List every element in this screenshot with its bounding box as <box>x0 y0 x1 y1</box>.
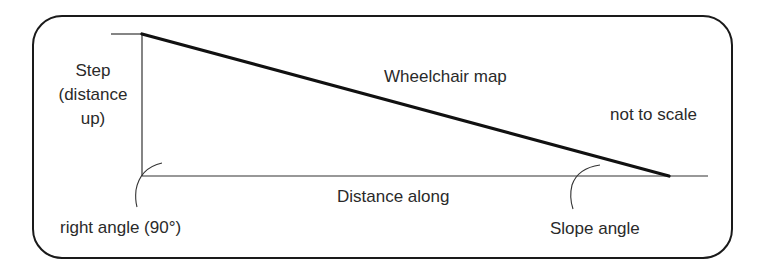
not-to-scale-note: not to scale <box>610 104 697 126</box>
diagram-title: Wheelchair map <box>384 66 507 88</box>
step-label-line1: Step <box>58 59 128 83</box>
distance-along-label: Distance along <box>337 186 449 208</box>
step-label-line3: up) <box>58 107 128 131</box>
step-label: Step (distance up) <box>58 59 128 131</box>
right-angle-label: right angle (90°) <box>60 217 181 239</box>
hypotenuse-slope <box>142 34 669 176</box>
slope-angle-arc <box>571 165 600 209</box>
right-angle-arc <box>136 163 162 207</box>
step-label-line2: (distance <box>58 83 128 107</box>
slope-angle-label: Slope angle <box>550 218 640 240</box>
